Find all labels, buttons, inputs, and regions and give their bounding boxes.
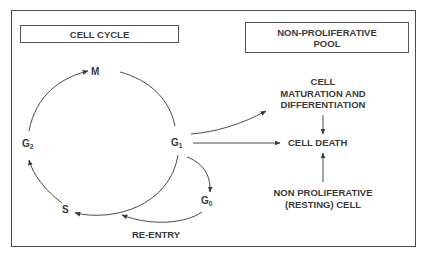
- re-entry-label: RE-ENTRY: [132, 229, 180, 241]
- phase-s-label: S: [62, 204, 69, 215]
- arrow-m-to-g1: [120, 72, 175, 126]
- arrow-g2-to-m: [29, 71, 88, 131]
- arrow-g1-to-maturation: [191, 111, 266, 134]
- maturation-label: CELL MATURATION AND DIFFERENTIATION: [265, 76, 381, 111]
- cell-death-label: CELL DEATH: [288, 137, 347, 149]
- arrow-g1-to-g0: [187, 157, 210, 192]
- phase-m-label: M: [91, 66, 99, 77]
- phase-g2-label: G2: [22, 138, 33, 150]
- arrows-layer: [0, 0, 430, 264]
- resting-cell-label: NON PROLIFERATIVE (RESTING) CELL: [262, 187, 384, 210]
- phase-g1-label: G1: [171, 137, 182, 149]
- phase-g0-label: G0: [201, 195, 212, 207]
- arrow-s-to-g2: [29, 160, 62, 203]
- arrow-g1-to-s: [75, 155, 178, 215]
- arrow-re-entry: [122, 212, 202, 222]
